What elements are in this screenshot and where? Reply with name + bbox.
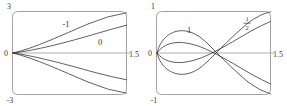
label-y-top-right: 1	[151, 2, 155, 11]
fraction-denominator: 2	[245, 24, 248, 31]
curve-label-one-right: 1	[187, 25, 191, 35]
label-y-bottom-left: -3	[7, 96, 14, 105]
curve-inner-lower-right	[157, 22, 271, 63]
curve-label-minus-one-left: -1	[62, 19, 69, 29]
label-origin-right: 0	[148, 49, 152, 58]
curve-inner-upper-right	[157, 42, 271, 84]
fraction-numerator: 1	[245, 15, 248, 22]
label-y-bottom-right: -1	[151, 96, 158, 105]
label-y-top-left: 3	[7, 2, 11, 11]
chart-panel-left: 3 -3 0 1.5 -1 0	[0, 0, 143, 106]
curve-lower-outer-left	[13, 53, 127, 93]
two-panel-figure: 3 -3 0 1.5 -1 0 1 -1 0 1.5 1	[0, 0, 287, 106]
curve-lower-inner-left	[13, 53, 127, 80]
label-origin-left: 0	[4, 49, 8, 58]
chart-panel-right: 1 -1 0 1.5 1 1 2	[144, 0, 287, 106]
label-x-right-right: 1.5	[273, 50, 283, 59]
curve-label-zero-left: 0	[98, 37, 102, 47]
curve-lens-lower-right	[157, 12, 271, 75]
curve-label-one-half-right: 1 2	[244, 15, 251, 31]
curve-upper-inner-left	[13, 25, 127, 53]
curve-upper-outer-left	[13, 13, 127, 53]
label-x-right-left: 1.5	[129, 50, 139, 59]
